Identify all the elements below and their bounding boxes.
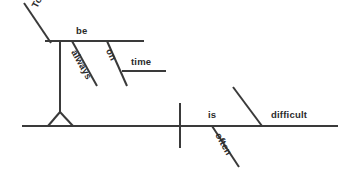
sentence-diagram: To be always on time is often difficult (0, 0, 355, 175)
pedestal-right-leg (60, 112, 73, 126)
label-is: is (208, 110, 216, 120)
label-time: time (131, 57, 151, 67)
label-be: be (76, 26, 88, 36)
label-difficult: difficult (271, 110, 307, 120)
diagram-canvas (0, 0, 355, 175)
predicate-adjective-divider (233, 87, 262, 126)
pedestal-left-leg (48, 112, 60, 126)
